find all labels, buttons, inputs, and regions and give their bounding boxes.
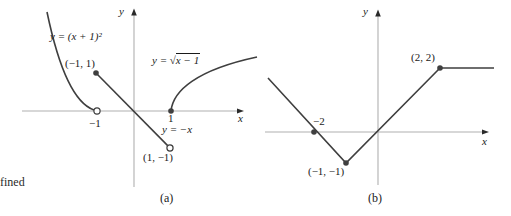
graph-a-y-axis-arrow-icon — [131, 9, 137, 16]
graph-a-tick-label-neg1: −1 — [89, 118, 101, 129]
graph-a-open-point-neg1-0 — [94, 108, 100, 114]
graph-b-y-axis-label: y — [363, 6, 368, 17]
graph-b-point-label-2-2: (2, 2) — [411, 52, 435, 63]
graph-b-closed-point-neg1-neg1 — [343, 160, 349, 166]
graph-b-y-axis-arrow-icon — [375, 10, 381, 17]
graph-b-x-axis-label: x — [482, 136, 487, 147]
page-text-fragment: fined — [0, 176, 25, 188]
graph-a-sqrt-equation-label: y = √x − 1 — [152, 55, 200, 66]
graph-a-parabola-equation-label: y = (x + 1)² — [50, 31, 102, 42]
graph-a-line-equation-label: y = −x — [162, 124, 192, 135]
graph-a-y-axis-label: y — [119, 6, 124, 17]
graph-a-closed-point-neg1-1 — [93, 70, 99, 76]
graph-b-plot — [265, 10, 494, 186]
figure-piecewise-graphs: y x y = (x + 1)² (−1, 1) y = √x − 1 −1 1… — [0, 0, 511, 216]
graph-b-point-label-neg1-neg1: (−1, −1) — [308, 166, 344, 177]
graph-a-line-segment — [96, 73, 168, 146]
graph-a-sqrt-equation-radicand: x − 1 — [176, 53, 200, 66]
graph-b-piecewise-curve — [268, 68, 494, 163]
graph-a-point-label-1-neg1: (1, −1) — [143, 152, 173, 163]
graph-a-x-axis-label: x — [238, 113, 243, 124]
graph-b-caption: (b) — [368, 192, 382, 204]
graph-b-closed-point-neg2-0 — [311, 129, 317, 135]
graph-b-x-axis-arrow-icon — [482, 129, 489, 134]
graph-b-closed-point-2-2 — [437, 65, 443, 71]
graph-a-point-label-neg1-1: (−1, 1) — [65, 58, 95, 69]
graph-a-sqrt-equation-prefix: y = √ — [152, 54, 176, 66]
graph-b-tick-label-neg2: −2 — [313, 116, 325, 127]
graph-a-caption: (a) — [160, 192, 173, 204]
